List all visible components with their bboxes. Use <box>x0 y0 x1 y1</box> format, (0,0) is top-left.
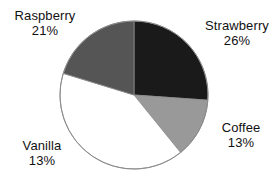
slice-label-vanilla-name: Vanilla <box>6 138 78 153</box>
slice-label-raspberry: Raspberry 21% <box>2 8 88 38</box>
slice-label-strawberry-name: Strawberry <box>196 18 278 33</box>
pie-slice-group <box>60 21 208 169</box>
slice-label-strawberry-percent: 26% <box>196 33 278 48</box>
slice-label-coffee-percent: 13% <box>206 135 276 150</box>
slice-label-vanilla: Vanilla 13% <box>6 138 78 168</box>
slice-label-coffee: Coffee 13% <box>206 120 276 150</box>
slice-label-strawberry: Strawberry 26% <box>196 18 278 48</box>
pie-chart-figure: Raspberry 21% Strawberry 26% Coffee 13% … <box>0 0 279 187</box>
slice-label-coffee-name: Coffee <box>206 120 276 135</box>
slice-label-raspberry-percent: 21% <box>2 23 88 38</box>
slice-label-vanilla-percent: 13% <box>6 153 78 168</box>
slice-label-raspberry-name: Raspberry <box>2 8 88 23</box>
